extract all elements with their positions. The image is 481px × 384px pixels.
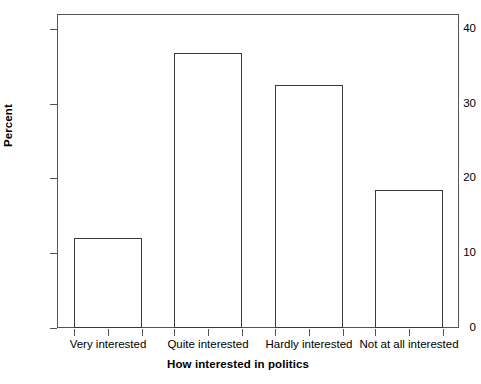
y-tick-label: 30 [432,98,476,110]
x-tick-mark [208,329,209,336]
bar-quite-interested [174,53,242,328]
y-tick-mark [50,253,57,254]
bar-very-interested [74,238,142,328]
x-tick-mark [343,329,344,336]
x-tick-mark [443,329,444,336]
x-tick-mark [242,329,243,336]
y-tick-mark [50,29,57,30]
x-tick-mark [409,329,410,336]
y-tick-mark [50,328,57,329]
bar-hardly-interested [275,85,343,328]
x-tick-mark [275,329,276,336]
y-axis-title: Percent [2,104,14,147]
bar-not-at-all-interested [375,190,443,328]
x-tick-mark [309,329,310,336]
x-tick-mark [174,329,175,336]
x-tick-label-not-at-all-interested: Not at all interested [334,338,481,351]
x-tick-mark [375,329,376,336]
x-tick-mark [74,329,75,336]
y-tick-mark [50,178,57,179]
y-tick-mark [50,104,57,105]
x-tick-mark [108,329,109,336]
x-axis-title: How interested in politics [0,358,476,370]
x-tick-mark [142,329,143,336]
y-tick-label: 20 [432,172,476,184]
y-tick-label: 40 [432,23,476,35]
